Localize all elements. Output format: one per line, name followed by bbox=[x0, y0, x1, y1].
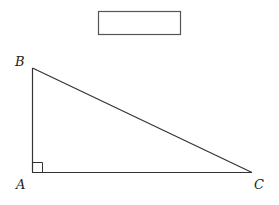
right-angle-marker-icon bbox=[33, 163, 43, 173]
answer-box[interactable] bbox=[99, 12, 181, 35]
vertex-label-b: B bbox=[14, 54, 25, 69]
triangle-diagram: B A C bbox=[0, 0, 279, 205]
vertex-label-c: C bbox=[254, 177, 264, 192]
vertex-label-a: A bbox=[15, 177, 25, 192]
side-bc-hypotenuse bbox=[33, 68, 253, 173]
